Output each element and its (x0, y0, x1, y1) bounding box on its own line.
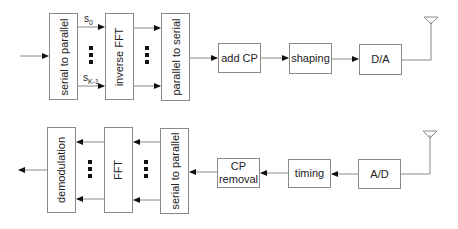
block-label: serial to parallel (169, 132, 181, 209)
ellipsis-dots-icon (89, 46, 93, 67)
block-label: shaping (291, 52, 330, 65)
block-label: CP removal (219, 160, 259, 186)
rx-fft-block: FFT (104, 127, 133, 213)
block-label: serial to parallel (58, 18, 70, 95)
block-label: inverse FFT (114, 27, 126, 86)
rx-serial-to-parallel-block: serial to parallel (160, 128, 189, 214)
rx-cp-removal-block: CP removal (217, 158, 260, 188)
tx-shaping-block: shaping (289, 43, 332, 74)
subcarrier-label-sk-1: sK-1 (83, 72, 99, 85)
tx-add-cp-block: add CP (218, 43, 261, 73)
rx-ad-block: A/D (358, 159, 401, 189)
ellipsis-dots-icon (144, 160, 148, 181)
block-label: demodulation (56, 137, 68, 203)
tx-parallel-to-serial-block: parallel to serial (161, 13, 190, 101)
tx-inverse-fft-block: inverse FFT (105, 13, 134, 100)
block-label: A/D (370, 168, 388, 181)
tx-serial-to-parallel-block: serial to parallel (49, 13, 78, 100)
block-label: add CP (221, 52, 258, 65)
rx-demodulation-block: demodulation (47, 127, 76, 213)
block-label: D/A (371, 53, 389, 66)
subcarrier-label-s0: s0 (84, 13, 93, 26)
ellipsis-dots-icon (145, 46, 149, 67)
rx-timing-block: timing (288, 159, 331, 188)
tx-da-block: D/A (359, 44, 402, 75)
block-label: parallel to serial (170, 18, 182, 95)
block-label: FFT (112, 160, 124, 180)
block-label: timing (295, 167, 324, 180)
ellipsis-dots-icon (88, 160, 92, 181)
